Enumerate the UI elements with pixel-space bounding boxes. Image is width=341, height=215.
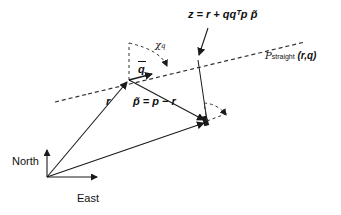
east-label: East — [77, 193, 99, 204]
vector-diagram — [0, 0, 341, 215]
p-vector — [47, 123, 204, 177]
z-pointer-arrow — [199, 28, 208, 55]
q-text: q — [138, 63, 145, 75]
r-label: r — [106, 96, 110, 107]
straight-path-label: Pstraight (r,q) — [265, 51, 316, 61]
path-script-p: P — [265, 50, 272, 61]
chi-subscript: q — [161, 42, 165, 50]
projection-line — [198, 60, 207, 121]
north-label: North — [12, 156, 39, 167]
q-vector-label: q — [138, 64, 145, 75]
path-subscript: straight — [272, 53, 295, 60]
z-equation-label: z = r + qqᵀp p̃ — [188, 9, 257, 20]
p-angle-arc — [204, 103, 226, 115]
p-tilde-equation-label: p̃ = p − r — [133, 96, 176, 107]
straight-path-line-left — [55, 94, 88, 102]
q-vector-arrow-accent — [138, 61, 146, 62]
straight-path-line — [88, 42, 305, 94]
chi-q-label: χq — [155, 40, 166, 50]
p-heading-dashed — [207, 113, 228, 121]
path-args: (r,q) — [297, 50, 316, 61]
